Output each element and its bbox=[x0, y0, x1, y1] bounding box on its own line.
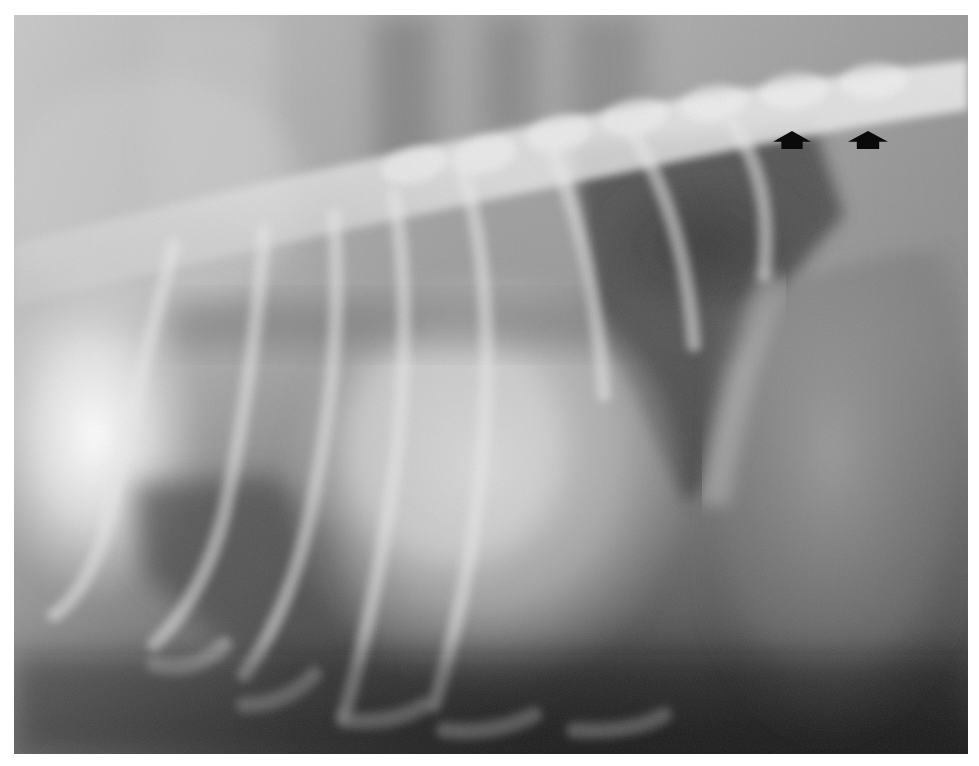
radiograph-image bbox=[14, 15, 968, 754]
arrow-up-icon bbox=[773, 131, 811, 149]
annotation-layer bbox=[14, 15, 968, 754]
arrow-up-icon bbox=[848, 131, 888, 149]
